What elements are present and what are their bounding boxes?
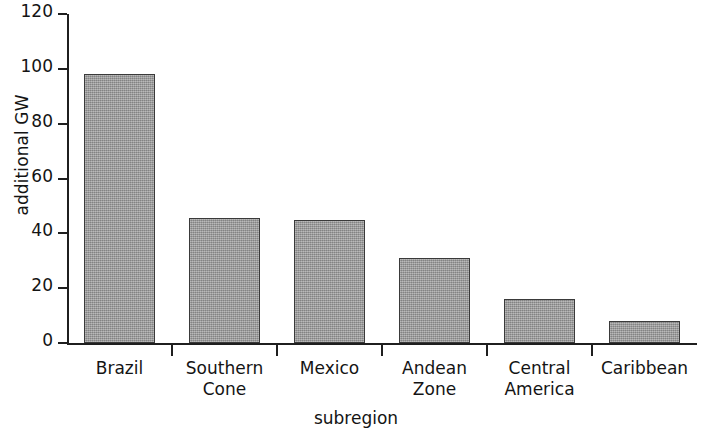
y-axis-tick: 40 xyxy=(58,232,67,234)
y-axis-line xyxy=(67,14,69,345)
y-axis-tick-label: 60 xyxy=(31,167,53,186)
y-axis-tick-label: 0 xyxy=(42,331,53,350)
plot-area: 020406080100120 xyxy=(67,14,697,345)
y-axis-tick-label: 20 xyxy=(31,276,53,295)
x-axis-tick xyxy=(486,345,488,356)
x-axis-category-label: Mexico xyxy=(277,358,382,379)
x-axis-category-label-line: Southern xyxy=(186,358,263,378)
x-axis-tick xyxy=(171,345,173,356)
bar xyxy=(609,321,680,343)
y-axis-tick: 20 xyxy=(58,287,67,289)
y-axis-tick: 80 xyxy=(58,123,67,125)
y-axis-title: additional GW xyxy=(12,55,32,255)
x-axis-category-label: CentralAmerica xyxy=(487,358,592,400)
bar xyxy=(504,299,575,343)
x-axis-category-label: AndeanZone xyxy=(382,358,487,400)
x-axis-tick xyxy=(276,345,278,356)
y-axis-tick: 60 xyxy=(58,178,67,180)
x-axis-title: subregion xyxy=(0,408,712,428)
x-axis-tick xyxy=(591,345,593,356)
y-axis-tick: 120 xyxy=(58,13,67,15)
x-axis-tick xyxy=(381,345,383,356)
bar xyxy=(294,220,365,343)
x-axis-category-label-line: Zone xyxy=(382,379,487,400)
x-axis-category-label-line: Mexico xyxy=(300,358,359,378)
y-axis-tick-label: 80 xyxy=(31,112,53,131)
y-axis-tick: 0 xyxy=(58,342,67,344)
x-axis-category-label-line: America xyxy=(487,379,592,400)
y-axis-tick-label: 120 xyxy=(21,2,53,21)
y-axis-tick-label: 100 xyxy=(21,57,53,76)
x-axis-category-label-line: Central xyxy=(509,358,571,378)
x-axis-category-label: Caribbean xyxy=(592,358,697,379)
y-axis-tick-label: 40 xyxy=(31,221,53,240)
x-axis-category-label-line: Brazil xyxy=(96,358,143,378)
x-axis-category-label-line: Caribbean xyxy=(601,358,688,378)
x-axis-category-label-line: Andean xyxy=(402,358,467,378)
bar xyxy=(399,258,470,343)
x-axis-category-label-line: Cone xyxy=(172,379,277,400)
bar xyxy=(189,218,260,343)
bar xyxy=(84,74,155,343)
bar-chart: additional GW 020406080100120 BrazilSout… xyxy=(0,0,712,436)
y-axis-tick: 100 xyxy=(58,68,67,70)
x-axis-category-label: SouthernCone xyxy=(172,358,277,400)
x-axis-category-label: Brazil xyxy=(67,358,172,379)
